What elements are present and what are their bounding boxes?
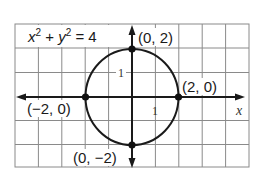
label-point-2-0: (2, 0)	[182, 78, 217, 95]
x-tick-label-1: 1	[152, 104, 158, 118]
coordinate-plane: x2 + y2 = 4 (0, 2) (2, 0) (−2, 0) (0, −2…	[0, 0, 261, 185]
label-point-0-2: (0, 2)	[138, 29, 173, 46]
y-tick-label-1: 1	[118, 66, 124, 80]
x-axis-label: x	[235, 103, 243, 118]
point-neg2-0	[82, 93, 89, 100]
point-0-neg2	[128, 141, 135, 148]
circle-graph-figure: x2 + y2 = 4 (0, 2) (2, 0) (−2, 0) (0, −2…	[0, 0, 261, 185]
label-point-neg2-0: (−2, 0)	[27, 100, 71, 117]
point-0-2	[128, 45, 135, 52]
label-point-0-neg2: (0, −2)	[73, 149, 117, 166]
